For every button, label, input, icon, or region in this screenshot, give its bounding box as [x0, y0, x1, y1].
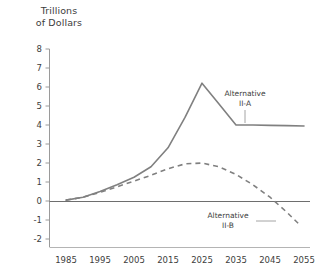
y-tick-label-2: 2 — [37, 158, 42, 168]
annotation-alternative-ii-b: Alternative II-B — [207, 211, 276, 230]
chart-svg: 8 7 6 5 4 3 2 1 0 -1 -2 1985 1995 2005 2… — [0, 0, 324, 279]
x-tick-label-1985: 1985 — [55, 255, 77, 265]
x-tick-label-2005: 2005 — [123, 255, 145, 265]
x-axis-tick-labels: 1985 1995 2005 2015 2025 2035 2045 2055 — [55, 255, 315, 265]
x-tick-label-1995: 1995 — [89, 255, 111, 265]
annotation-ii-b-line-1: Alternative — [207, 211, 249, 220]
y-tick-label-5: 5 — [37, 101, 42, 111]
x-tick-label-2015: 2015 — [157, 255, 179, 265]
annotation-ii-a-line-1: Alternative — [224, 89, 266, 98]
y-axis-ticks — [46, 49, 50, 239]
y-tick-label-neg1: -1 — [34, 215, 42, 225]
x-tick-label-2045: 2045 — [259, 255, 281, 265]
chart-container: Trillions of Dollars 8 7 6 5 4 3 — [0, 0, 324, 279]
series-line-alternative-ii-b — [66, 163, 301, 226]
x-tick-label-2055: 2055 — [293, 255, 315, 265]
y-tick-label-0: 0 — [37, 196, 42, 206]
y-tick-label-neg2: -2 — [34, 234, 42, 244]
y-tick-label-1: 1 — [37, 177, 42, 187]
annotation-ii-b-line-2: II-B — [222, 221, 234, 230]
series-line-alternative-ii-a — [66, 83, 304, 200]
y-tick-label-8: 8 — [37, 44, 42, 54]
y-tick-label-7: 7 — [37, 63, 42, 73]
y-tick-label-6: 6 — [37, 82, 42, 92]
x-tick-label-2025: 2025 — [191, 255, 213, 265]
x-tick-label-2035: 2035 — [225, 255, 247, 265]
y-axis-tick-labels: 8 7 6 5 4 3 2 1 0 -1 -2 — [34, 44, 42, 244]
y-tick-label-3: 3 — [37, 139, 42, 149]
y-tick-label-4: 4 — [37, 120, 42, 130]
annotation-ii-a-line-2: II-A — [239, 99, 252, 108]
